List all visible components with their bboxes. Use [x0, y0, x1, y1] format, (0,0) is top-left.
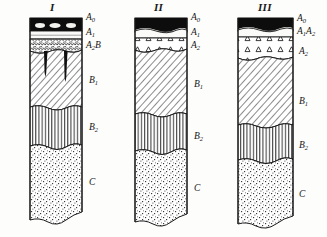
- horizon-a1-profile-1: [30, 31, 82, 39]
- horizon-label-a0-profile-2: A0: [191, 13, 200, 23]
- soil-profile-figure: [0, 0, 327, 237]
- horizon-c-profile-1: [30, 144, 82, 224]
- horizon-label-a2-profile-3: A2: [299, 47, 308, 57]
- horizon-label-b1-profile-1: B1: [89, 76, 98, 86]
- horizon-label-c-profile-3: C: [299, 190, 305, 200]
- horizon-label-a1a2-profile-3: A1A2: [297, 27, 315, 37]
- profile-2-numeral: II: [154, 1, 163, 13]
- horizon-label-a2b-profile-1: A2B: [86, 41, 101, 51]
- horizon-label-a2-profile-2: A2: [191, 41, 200, 51]
- horizon-label-a1-profile-2: A1: [191, 28, 200, 38]
- profile-1-numeral: I: [50, 1, 55, 13]
- profile-column-2: [135, 18, 187, 226]
- horizon-a0-profile-1: [30, 18, 82, 31]
- profile-3-numeral: III: [258, 1, 272, 13]
- horizon-b2-profile-1: [30, 106, 82, 150]
- horizon-b2-profile-2: [135, 113, 187, 155]
- horizon-label-c-profile-2: C: [194, 184, 200, 194]
- profile-column-1: [30, 18, 82, 224]
- horizon-label-b2-profile-1: B2: [89, 123, 98, 133]
- profile-column-3: [238, 18, 293, 228]
- horizon-b1-profile-1: [30, 50, 82, 110]
- horizon-c-profile-3: [238, 158, 293, 228]
- horizon-b1-profile-2: [135, 49, 187, 117]
- horizon-label-b1-profile-2: B1: [194, 80, 203, 90]
- horizon-label-b2-profile-2: B2: [194, 132, 203, 142]
- horizon-b1-profile-3: [238, 57, 293, 128]
- horizon-c-profile-2: [135, 149, 187, 226]
- horizon-label-b2-profile-3: B2: [299, 141, 308, 151]
- horizon-label-a0-profile-3: A0: [297, 14, 306, 24]
- horizon-label-b1-profile-3: B1: [299, 97, 308, 107]
- horizon-label-a1-profile-1: A1: [86, 28, 95, 38]
- horizon-label-a0-profile-1: A0: [86, 13, 95, 23]
- horizon-label-c-profile-1: C: [89, 178, 95, 188]
